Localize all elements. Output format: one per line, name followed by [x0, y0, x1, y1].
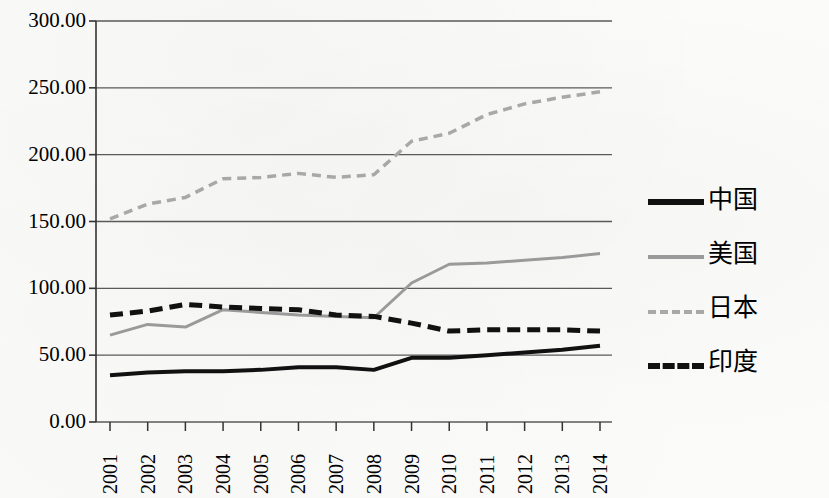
- series-line-0: [110, 346, 600, 375]
- x-axis-tick-label: 2009: [402, 454, 422, 494]
- legend-item-1[interactable]: 美国: [648, 240, 823, 294]
- x-axis-tick-label: 2012: [515, 454, 535, 494]
- x-axis-tick-label: 2006: [288, 454, 308, 494]
- x-axis-tick-label: 2001: [100, 454, 120, 494]
- x-axis-tick-label: 2002: [138, 454, 158, 494]
- legend-item-2[interactable]: 日本: [648, 294, 823, 348]
- x-axis-tick-label: 2004: [213, 454, 233, 494]
- chart-legend: 中国美国日本印度: [648, 186, 823, 402]
- legend-item-label: 中国: [708, 186, 758, 215]
- legend-item-3[interactable]: 印度: [648, 348, 823, 402]
- legend-item-label: 印度: [708, 348, 758, 377]
- x-axis-tick-label: 2003: [175, 454, 195, 494]
- legend-item-label: 美国: [708, 240, 758, 269]
- x-axis-tick-label: 2008: [364, 454, 384, 494]
- x-axis-tick-label: 2007: [326, 454, 346, 494]
- axis-lines: [89, 21, 96, 422]
- legend-item-0[interactable]: 中国: [648, 186, 823, 240]
- legend-swatch-icon: [648, 363, 704, 369]
- x-axis-tick-label: 2013: [552, 454, 572, 494]
- gridlines: [96, 21, 612, 422]
- legend-swatch-icon: [648, 255, 704, 259]
- x-axis-ticks: [110, 422, 600, 431]
- x-axis-tick-label: 2014: [590, 454, 610, 494]
- legend-swatch-icon: [648, 310, 704, 314]
- x-axis-tick-label: 2011: [477, 455, 497, 494]
- series-line-1: [110, 254, 600, 336]
- x-axis-tick-label: 2005: [251, 454, 271, 494]
- data-series-group: [110, 92, 600, 375]
- legend-item-label: 日本: [708, 294, 758, 323]
- x-axis-tick-label: 2010: [439, 454, 459, 494]
- series-line-2: [110, 92, 600, 219]
- legend-swatch-icon: [648, 199, 704, 205]
- chart-figure: ​ 300.00250.00200.00150.00100.0050.000.0…: [0, 0, 829, 498]
